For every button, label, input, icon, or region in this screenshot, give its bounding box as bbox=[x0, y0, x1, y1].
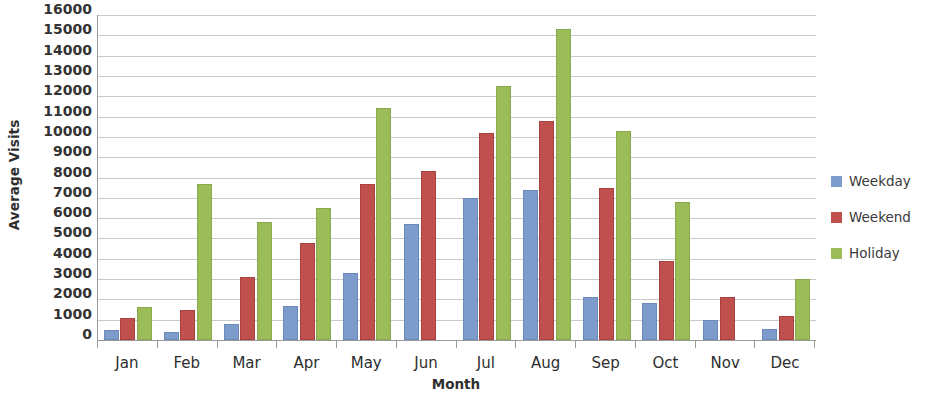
bar-weekday-sep[interactable] bbox=[583, 297, 598, 340]
bar-holiday-sep[interactable] bbox=[616, 131, 631, 340]
x-axis-tickmark bbox=[218, 341, 278, 348]
legend-label: Holiday bbox=[849, 245, 900, 261]
y-axis-tick-label: 12000 bbox=[43, 83, 92, 97]
y-axis-tick-label: 10000 bbox=[43, 124, 92, 138]
y-axis-tick-label: 5000 bbox=[53, 225, 92, 239]
y-axis-tick-label: 7000 bbox=[53, 185, 92, 199]
y-axis-tick-label: 16000 bbox=[43, 2, 92, 16]
bar-weekday-jan[interactable] bbox=[104, 330, 119, 340]
month-bar-group bbox=[98, 15, 158, 340]
x-axis-tickmark bbox=[277, 341, 337, 348]
x-axis-tick-label: Jan bbox=[97, 352, 157, 374]
x-axis-tickmark bbox=[516, 341, 576, 348]
legend-item-weekday[interactable]: Weekday bbox=[831, 163, 934, 199]
legend-item-weekend[interactable]: Weekend bbox=[831, 199, 934, 235]
x-axis-tick-label: Apr bbox=[276, 352, 336, 374]
legend: WeekdayWeekendHoliday bbox=[831, 163, 934, 271]
bar-weekend-feb[interactable] bbox=[180, 310, 195, 340]
x-axis-tickmark bbox=[576, 341, 636, 348]
y-axis-tick-label: 11000 bbox=[43, 104, 92, 118]
x-axis-tick-label: Mar bbox=[217, 352, 277, 374]
x-axis-tick-label: Aug bbox=[516, 352, 576, 374]
x-axis-title: Month bbox=[97, 376, 815, 392]
x-axis-tickmarks bbox=[97, 341, 815, 348]
month-bar-group bbox=[636, 15, 696, 340]
y-axis-tick-label: 15000 bbox=[43, 22, 92, 36]
plot-area bbox=[97, 15, 816, 341]
bar-weekend-jun[interactable] bbox=[421, 171, 436, 340]
y-axis-tick-label: 2000 bbox=[53, 286, 92, 300]
month-bar-group bbox=[696, 15, 756, 340]
month-bar-group bbox=[397, 15, 457, 340]
y-axis-tick-label: 8000 bbox=[53, 165, 92, 179]
x-axis-tickmark bbox=[636, 341, 696, 348]
bar-weekday-apr[interactable] bbox=[283, 306, 298, 341]
y-axis-tick-labels: 0100020003000400050006000700080009000100… bbox=[26, 9, 92, 343]
x-axis-tickmark bbox=[158, 341, 218, 348]
x-axis-tick-label: Dec bbox=[755, 352, 815, 374]
x-axis-tick-label: May bbox=[336, 352, 396, 374]
month-bar-group bbox=[517, 15, 577, 340]
month-bar-group bbox=[277, 15, 337, 340]
bar-holiday-mar[interactable] bbox=[257, 222, 272, 340]
bar-holiday-jan[interactable] bbox=[137, 307, 152, 340]
bar-holiday-jul[interactable] bbox=[496, 86, 511, 340]
month-bar-group bbox=[158, 15, 218, 340]
bar-weekend-oct[interactable] bbox=[659, 261, 674, 340]
bar-weekend-may[interactable] bbox=[360, 184, 375, 340]
month-bar-group bbox=[577, 15, 637, 340]
legend-item-holiday[interactable]: Holiday bbox=[831, 235, 934, 271]
bar-holiday-apr[interactable] bbox=[316, 208, 331, 340]
bar-chart: Average Visits 0100020003000400050006000… bbox=[0, 0, 934, 404]
bar-weekday-dec[interactable] bbox=[762, 329, 777, 340]
bar-holiday-feb[interactable] bbox=[197, 184, 212, 340]
x-axis-tickmark bbox=[337, 341, 397, 348]
bar-weekday-mar[interactable] bbox=[224, 324, 239, 340]
y-axis-tick-label: 9000 bbox=[53, 144, 92, 158]
bar-weekend-mar[interactable] bbox=[240, 277, 255, 340]
bar-weekend-dec[interactable] bbox=[779, 316, 794, 340]
bar-weekday-jun[interactable] bbox=[404, 224, 419, 340]
bar-holiday-dec[interactable] bbox=[795, 279, 810, 340]
bar-holiday-aug[interactable] bbox=[556, 29, 571, 340]
bar-weekday-jul[interactable] bbox=[463, 198, 478, 340]
x-axis-tickmark bbox=[97, 341, 158, 348]
bar-weekend-jul[interactable] bbox=[479, 133, 494, 340]
legend-swatch-icon bbox=[831, 212, 842, 223]
y-axis-tick-label: 6000 bbox=[53, 205, 92, 219]
bar-weekend-sep[interactable] bbox=[599, 188, 614, 340]
x-axis-tick-label: Jul bbox=[456, 352, 516, 374]
bar-holiday-may[interactable] bbox=[376, 108, 391, 340]
bar-weekday-feb[interactable] bbox=[164, 332, 179, 340]
legend-swatch-icon bbox=[831, 176, 842, 187]
y-axis-tick-label: 0 bbox=[82, 327, 92, 341]
legend-label: Weekday bbox=[849, 173, 911, 189]
x-axis-tickmark bbox=[755, 341, 815, 348]
y-axis-tick-label: 3000 bbox=[53, 266, 92, 280]
bar-weekday-nov[interactable] bbox=[703, 320, 718, 340]
x-axis-tickmark bbox=[457, 341, 517, 348]
bar-weekend-nov[interactable] bbox=[720, 297, 735, 340]
bar-weekday-may[interactable] bbox=[343, 273, 358, 340]
month-bar-group bbox=[337, 15, 397, 340]
legend-label: Weekend bbox=[849, 209, 911, 225]
bar-weekend-jan[interactable] bbox=[120, 318, 135, 340]
x-axis-tickmark bbox=[696, 341, 756, 348]
y-axis-tick-label: 13000 bbox=[43, 63, 92, 77]
bar-weekday-oct[interactable] bbox=[642, 303, 657, 340]
x-axis-tick-label: Sep bbox=[576, 352, 636, 374]
y-axis-tick-label: 14000 bbox=[43, 43, 92, 57]
y-axis-title-label: Average Visits bbox=[6, 120, 22, 231]
bars-container bbox=[98, 15, 816, 340]
bar-weekend-aug[interactable] bbox=[539, 121, 554, 340]
bar-weekday-aug[interactable] bbox=[523, 190, 538, 340]
x-axis-tick-label: Nov bbox=[695, 352, 755, 374]
month-bar-group bbox=[756, 15, 816, 340]
x-axis-tick-label: Jun bbox=[396, 352, 456, 374]
y-axis-tick-label: 1000 bbox=[53, 307, 92, 321]
y-axis-title: Average Visits bbox=[0, 0, 28, 350]
x-axis-tick-labels: JanFebMarAprMayJunJulAugSepOctNovDec bbox=[97, 352, 815, 374]
bar-holiday-oct[interactable] bbox=[675, 202, 690, 340]
bar-weekend-apr[interactable] bbox=[300, 243, 315, 340]
month-bar-group bbox=[457, 15, 517, 340]
